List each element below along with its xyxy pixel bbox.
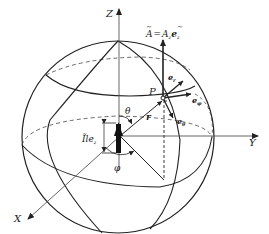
theta-arc [119, 116, 132, 124]
point-p-label: P [148, 86, 156, 97]
theta-label: θ [125, 106, 131, 116]
point-p [161, 96, 165, 100]
svg-text:~: ~ [146, 23, 152, 31]
dipole-label: Ĩlez [81, 133, 97, 145]
phi-label: φ [114, 163, 121, 173]
z-axis-label: Z [105, 8, 114, 19]
svg-text:~: ~ [177, 23, 183, 31]
vector-potential-label: A=Azez ~ ~ [145, 23, 183, 40]
projection-to-origin [120, 136, 164, 180]
dipole-arrowhead [114, 122, 123, 136]
meridian-1 [118, 41, 180, 229]
y-axis-label: Y [249, 137, 257, 148]
radius-label: r [146, 112, 152, 122]
ephi-label: eφ [192, 95, 202, 107]
er-label: er [168, 72, 176, 83]
x-axis-label: X [13, 213, 22, 224]
spherical-coordinates-diagram: Z Y X P r θ φ A=Azez ~ ~ er eφ eθ Ĩlez [0, 0, 269, 234]
etheta-label: eθ [177, 116, 186, 127]
